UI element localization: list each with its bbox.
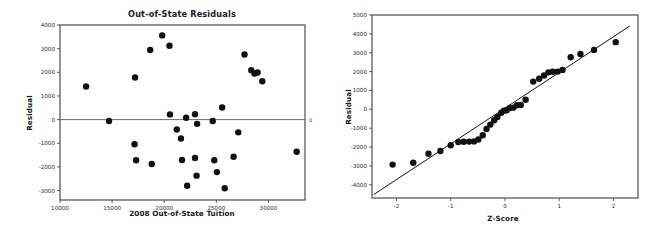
x-tick-label: 1 bbox=[558, 203, 562, 209]
y-tick-label: 1000 bbox=[41, 93, 56, 99]
data-point bbox=[410, 160, 416, 166]
data-point bbox=[522, 97, 528, 103]
data-point bbox=[211, 157, 217, 163]
y-tick-label: -3000 bbox=[351, 163, 368, 169]
data-point bbox=[132, 74, 138, 80]
data-point bbox=[591, 47, 597, 53]
plot-area: -3000-2000-10000100020003000400010000150… bbox=[39, 22, 313, 211]
y-tick-label: -4000 bbox=[351, 182, 368, 188]
data-point bbox=[559, 67, 565, 73]
data-point bbox=[192, 111, 198, 117]
y-tick-label: 2000 bbox=[353, 69, 368, 75]
y-axis-label: Residual bbox=[25, 95, 34, 131]
data-point bbox=[389, 161, 395, 167]
data-point bbox=[293, 149, 299, 155]
data-point bbox=[437, 148, 443, 154]
data-point bbox=[192, 155, 198, 161]
y-tick-label: -1000 bbox=[39, 140, 56, 146]
y-tick-label: 3000 bbox=[41, 46, 56, 52]
data-point bbox=[480, 132, 486, 138]
y-axis-label: Residual bbox=[344, 89, 353, 125]
data-point bbox=[230, 154, 236, 160]
x-tick-label: 10000 bbox=[51, 205, 69, 211]
data-point bbox=[530, 78, 536, 84]
y-tick-label: -3000 bbox=[39, 188, 56, 194]
y-tick-label: -2000 bbox=[351, 144, 368, 150]
data-point bbox=[425, 150, 431, 156]
data-point bbox=[235, 129, 241, 135]
data-point bbox=[254, 69, 260, 75]
zero-reference-label: 0 bbox=[309, 117, 312, 123]
y-tick-label: 3000 bbox=[353, 50, 368, 56]
y-tick-label: 1000 bbox=[353, 87, 368, 93]
data-point bbox=[448, 142, 454, 148]
data-point bbox=[147, 47, 153, 53]
y-tick-label: 4000 bbox=[353, 31, 368, 37]
data-point bbox=[214, 169, 220, 175]
plot-area: -4000-3000-2000-100001000200030004000500… bbox=[351, 12, 638, 209]
plot-frame bbox=[60, 25, 305, 200]
data-point bbox=[241, 51, 247, 57]
data-point bbox=[183, 115, 189, 121]
data-point bbox=[219, 104, 225, 110]
plot-frame bbox=[372, 15, 638, 198]
x-tick-label: 15000 bbox=[103, 205, 121, 211]
x-tick-label: 0 bbox=[503, 203, 507, 209]
screenshot-page: Out-of-State Residuals Residual 2008 Out… bbox=[0, 0, 656, 236]
data-point bbox=[518, 102, 524, 108]
data-point bbox=[106, 118, 112, 124]
x-tick-label: 30000 bbox=[260, 205, 278, 211]
residual-scatter-figure: Out-of-State Residuals Residual 2008 Out… bbox=[0, 0, 338, 236]
data-point bbox=[194, 121, 200, 127]
x-tick-label: -1 bbox=[448, 203, 454, 209]
data-point bbox=[179, 157, 185, 163]
data-point bbox=[166, 43, 172, 49]
data-point bbox=[174, 126, 180, 132]
data-point bbox=[167, 111, 173, 117]
y-tick-label: 2000 bbox=[41, 69, 56, 75]
normal-probability-plot-svg: Residual Z-Score -4000-3000-2000-1000010… bbox=[338, 0, 656, 236]
normal-probability-plot-figure: Residual Z-Score -4000-3000-2000-1000010… bbox=[338, 0, 656, 236]
data-point bbox=[178, 135, 184, 141]
data-point bbox=[577, 51, 583, 57]
x-axis-label: Z-Score bbox=[487, 214, 519, 223]
x-tick-label: 25000 bbox=[207, 205, 225, 211]
data-point bbox=[259, 78, 265, 84]
y-tick-label: -2000 bbox=[39, 164, 56, 170]
y-tick-label: 0 bbox=[363, 106, 367, 112]
x-tick-label: 20000 bbox=[155, 205, 173, 211]
y-tick-label: 5000 bbox=[353, 12, 368, 18]
data-point bbox=[83, 83, 89, 89]
data-point bbox=[149, 161, 155, 167]
data-point bbox=[133, 157, 139, 163]
data-point bbox=[613, 39, 619, 45]
y-tick-label: 0 bbox=[51, 117, 55, 123]
x-tick-label: -2 bbox=[394, 203, 400, 209]
data-point bbox=[193, 172, 199, 178]
data-point bbox=[131, 141, 137, 147]
data-point bbox=[159, 32, 165, 38]
data-point bbox=[210, 118, 216, 124]
data-point bbox=[184, 183, 190, 189]
data-point bbox=[567, 54, 573, 60]
data-point bbox=[222, 185, 228, 191]
y-tick-label: 4000 bbox=[41, 22, 56, 28]
chart-title: Out-of-State Residuals bbox=[128, 9, 236, 19]
y-tick-label: -1000 bbox=[351, 125, 368, 131]
residual-scatter-svg: Out-of-State Residuals Residual 2008 Out… bbox=[0, 0, 338, 236]
x-tick-label: 2 bbox=[612, 203, 616, 209]
